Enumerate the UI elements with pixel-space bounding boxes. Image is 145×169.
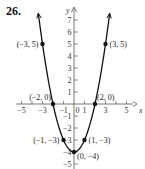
y-tick-label: −4	[63, 148, 72, 157]
x-axis-arrow-icon	[133, 102, 137, 107]
point-label: (−2, 0)	[29, 93, 51, 102]
y-tick-label: −5	[63, 160, 72, 169]
point-label: (−3, 5)	[17, 40, 39, 49]
y-tick-label: −1	[63, 112, 72, 121]
x-tick-label: 5	[125, 106, 129, 115]
data-point	[61, 138, 65, 142]
y-tick-label: 4	[68, 52, 72, 61]
x-axis-label: x	[138, 106, 143, 115]
data-points: (−3, 5)(3, 5)(−2, 0)(2, 0)(−1, −3)(1, −3…	[17, 40, 128, 161]
y-tick-label: 2	[68, 76, 72, 85]
y-tick-label: 6	[68, 28, 72, 37]
y-tick-label: −2	[63, 124, 72, 133]
data-point	[103, 42, 107, 46]
y-tick-label: 1	[68, 88, 72, 97]
origin-label: 0	[76, 106, 80, 115]
y-tick-label: 3	[68, 64, 72, 73]
data-point	[51, 102, 55, 106]
point-label: (2, 0)	[97, 93, 115, 102]
data-point	[40, 42, 44, 46]
point-label: (1, −3)	[89, 136, 111, 145]
x-tick-label: −3	[38, 106, 47, 115]
y-tick-label: 5	[68, 40, 72, 49]
x-tick-label: −5	[17, 106, 26, 115]
x-tick-label: 3	[104, 106, 108, 115]
point-label: (−1, −3)	[33, 136, 60, 145]
point-label: (3, 5)	[110, 40, 128, 49]
point-label: (0, −4)	[77, 152, 99, 161]
x-tick-label: 1	[83, 106, 87, 115]
parabola-chart: xy −5−3−113507654321−1−2−3−4−5 (−3, 5)(3…	[0, 0, 145, 169]
data-point	[82, 138, 86, 142]
data-point	[93, 102, 97, 106]
y-tick-label: 7	[68, 16, 72, 25]
data-point	[72, 150, 76, 154]
y-axis-label: y	[65, 6, 70, 15]
